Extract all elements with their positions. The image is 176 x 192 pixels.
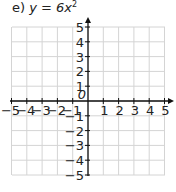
y-tick-label: −4: [65, 153, 84, 168]
y-tick-label: −1: [65, 109, 84, 124]
y-tick-label: 5: [76, 20, 84, 35]
y-tick-label: −5: [65, 168, 84, 183]
y-tick-label: 4: [76, 35, 84, 50]
x-tick-label: 2: [115, 103, 123, 118]
coordinate-grid: −5−4−3−2−112345−5−4−3−2−1123450: [0, 0, 176, 192]
x-tick-label: 4: [146, 103, 154, 118]
y-tick-label: −3: [65, 138, 84, 153]
y-tick-label: 3: [76, 50, 84, 65]
y-tick-label: 2: [76, 64, 84, 79]
x-tick-label: 1: [100, 103, 108, 118]
origin-label: 0: [78, 87, 86, 102]
x-tick-label: 3: [131, 103, 139, 118]
y-axis-arrow-icon: [85, 17, 91, 23]
x-tick-label: 5: [161, 103, 169, 118]
y-tick-label: −2: [65, 124, 84, 139]
